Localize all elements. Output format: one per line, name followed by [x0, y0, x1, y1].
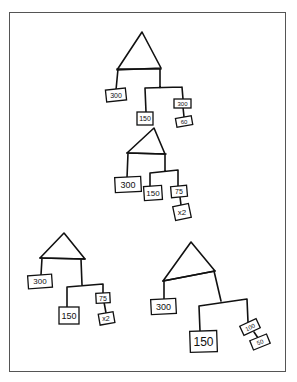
tree-bottom-left: 300 150 75 x2 [28, 233, 115, 325]
node-box: x2 [173, 203, 192, 220]
roof-triangle [127, 128, 165, 154]
node-box: 60 [175, 116, 192, 128]
node-box: 50 [250, 334, 270, 350]
node-label: 60 [181, 119, 188, 125]
node-box: 300 [174, 99, 191, 108]
node-label: 75 [175, 188, 183, 195]
node-label: 75 [99, 295, 107, 302]
node-label: 300 [33, 277, 47, 286]
node-label: 150 [139, 115, 151, 122]
tree-bottom-right: 300 150 100 50 [151, 242, 271, 352]
node-label: 150 [61, 311, 76, 321]
diagram-canvas: 300 150 300 60 300 150 75 [0, 0, 297, 382]
node-box: 75 [96, 293, 111, 304]
tree-middle: 300 150 75 x2 [115, 128, 192, 221]
node-label: 150 [193, 335, 213, 349]
node-label: 300 [120, 180, 135, 190]
tree-top: 300 150 300 60 [105, 32, 192, 127]
node-box: x2 [98, 312, 115, 325]
roof-triangle [117, 32, 161, 70]
node-box: 100 [240, 319, 261, 336]
node-box: 75 [171, 185, 188, 197]
node-label: 300 [177, 101, 188, 107]
roof-triangle [163, 242, 215, 281]
node-box: 300 [28, 274, 53, 289]
node-box: 150 [137, 112, 153, 125]
node-box: 300 [105, 88, 126, 102]
node-box: 150 [144, 185, 163, 200]
node-label: 150 [146, 189, 160, 198]
node-label: x2 [178, 208, 187, 217]
node-label: 300 [110, 92, 122, 99]
node-box: 150 [59, 307, 79, 324]
node-box: 150 [190, 331, 218, 353]
node-box: 300 [151, 298, 177, 314]
node-label: x2 [102, 315, 110, 322]
node-box: 300 [115, 176, 142, 192]
node-label: 300 [156, 302, 171, 312]
roof-triangle [40, 233, 85, 259]
